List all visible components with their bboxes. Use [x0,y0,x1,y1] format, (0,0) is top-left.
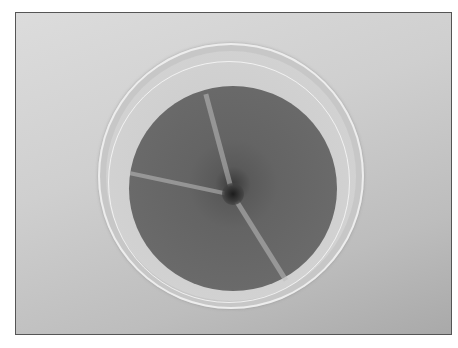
photo-frame [15,12,452,335]
colony-center [222,183,244,205]
